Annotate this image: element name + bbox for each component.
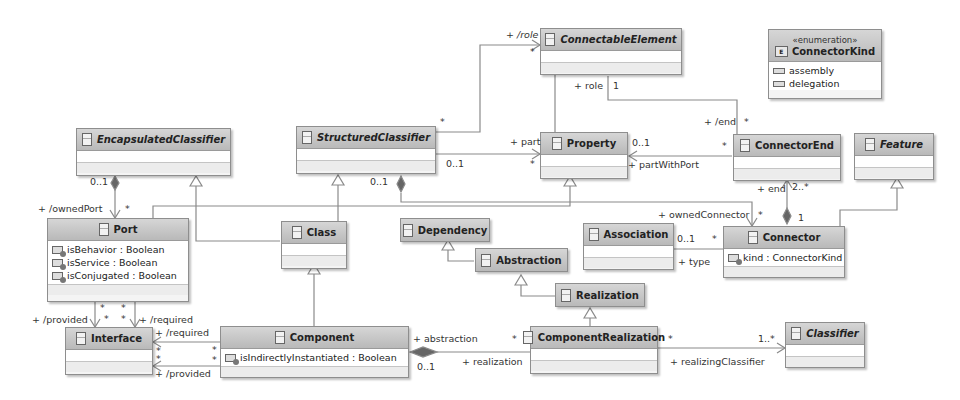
attributes-compartment: isBehavior : Boolean isService : Boolean… xyxy=(48,241,188,285)
class-icon xyxy=(589,228,599,241)
operations-compartment xyxy=(77,163,230,173)
class-name: Dependency xyxy=(418,225,488,236)
class-connector-end[interactable]: ConnectorEnd xyxy=(733,134,841,181)
multiplicity-label: 0..1 xyxy=(90,176,108,187)
class-icon xyxy=(523,331,533,344)
attribute[interactable]: isConjugated : Boolean xyxy=(48,269,188,282)
multiplicity-label: * xyxy=(440,116,445,127)
class-icon xyxy=(275,331,285,344)
multiplicity-label: * xyxy=(104,313,109,324)
class-name: Realization xyxy=(576,290,639,301)
operations-compartment xyxy=(48,285,188,295)
literal-icon xyxy=(773,81,785,87)
class-port[interactable]: Port isBehavior : Boolean isService : Bo… xyxy=(47,218,189,302)
attributes-compartment xyxy=(282,244,346,256)
multiplicity-label: * xyxy=(100,302,105,313)
multiplicity-label: * xyxy=(722,140,727,151)
class-name: Interface xyxy=(91,333,142,344)
class-name: ComponentRealization xyxy=(538,332,665,343)
class-classifier[interactable]: Classifier xyxy=(785,322,865,368)
class-icon xyxy=(403,224,413,237)
role-label: + realization xyxy=(462,356,523,367)
attributes-compartment xyxy=(531,349,657,361)
attributes-compartment xyxy=(734,157,840,169)
class-icon xyxy=(292,226,302,239)
operations-compartment xyxy=(734,169,840,179)
multiplicity-label: * xyxy=(125,203,130,214)
role-label: + ownedConnector xyxy=(658,209,749,220)
attributes-compartment xyxy=(541,155,627,167)
role-label: + type xyxy=(678,256,710,267)
multiplicity-label: 1 xyxy=(613,80,619,91)
role-label: + /provided xyxy=(32,314,88,325)
operations-compartment xyxy=(66,362,152,372)
multiplicity-label: 1 xyxy=(798,212,804,223)
class-name: ConnectorEnd xyxy=(755,140,834,151)
class-icon xyxy=(552,137,562,150)
multiplicity-label: * xyxy=(712,233,717,244)
operations-compartment xyxy=(282,256,346,266)
attributes-compartment: kind : ConnectorKind xyxy=(724,249,844,267)
class-connectable-element[interactable]: ConnectableElement xyxy=(540,28,682,75)
multiplicity-label: * xyxy=(121,313,126,324)
literal[interactable]: assembly xyxy=(769,64,881,77)
stereotype-label: «enumeration» xyxy=(793,35,858,45)
role-label: + /ownedPort xyxy=(38,203,103,214)
connector-generalization xyxy=(840,188,897,226)
class-encapsulated-classifier[interactable]: EncapsulatedClassifier xyxy=(76,128,231,176)
role-label: + abstraction xyxy=(413,333,478,344)
class-component-realization[interactable]: ComponentRealization xyxy=(530,326,658,374)
role-label: + realizingClassifier xyxy=(670,356,765,367)
attribute[interactable]: isBehavior : Boolean xyxy=(48,243,188,256)
class-name: ConnectableElement xyxy=(560,34,676,45)
role-label: + /required xyxy=(139,314,193,325)
class-feature[interactable]: Feature xyxy=(854,133,934,180)
class-icon xyxy=(865,138,875,151)
attribute-icon xyxy=(728,254,739,262)
class-icon xyxy=(82,133,92,146)
class-abstraction[interactable]: Abstraction xyxy=(475,248,568,272)
multiplicity-label: * xyxy=(530,46,535,57)
operations-compartment xyxy=(855,168,933,178)
role-label: + end xyxy=(757,183,786,194)
attributes-compartment xyxy=(584,246,673,258)
class-name: StructuredClassifier xyxy=(317,132,430,143)
class-name: Class xyxy=(307,227,336,238)
operations-compartment xyxy=(531,361,657,371)
attributes-compartment xyxy=(855,156,933,168)
class-name: Port xyxy=(114,224,138,235)
port-generalization xyxy=(153,176,570,220)
role-label: + partWithPort xyxy=(628,159,699,170)
attribute[interactable]: kind : ConnectorKind xyxy=(724,251,844,264)
class-structured-classifier[interactable]: StructuredClassifier xyxy=(296,126,436,174)
role-label: + role xyxy=(574,80,603,91)
attribute[interactable]: isIndirectlyInstantiated : Boolean xyxy=(221,351,408,364)
class-icon xyxy=(545,33,555,46)
class-connector[interactable]: Connector kind : ConnectorKind xyxy=(723,226,845,278)
role-label: + /provided xyxy=(155,368,211,379)
class-component[interactable]: Component isIndirectlyInstantiated : Boo… xyxy=(220,326,409,378)
enumeration-connector-kind[interactable]: «enumeration» EConnectorKind assembly de… xyxy=(768,29,882,99)
class-association[interactable]: Association xyxy=(583,223,674,270)
class-name: Abstraction xyxy=(496,255,561,266)
multiplicity-label: 1..* xyxy=(758,333,775,344)
class-class[interactable]: Class xyxy=(281,221,347,269)
literal[interactable]: delegation xyxy=(769,77,881,90)
operations-compartment xyxy=(297,161,435,171)
multiplicity-label: 0..1 xyxy=(370,176,388,187)
class-realization[interactable]: Realization xyxy=(555,283,645,307)
multiplicity-label: * xyxy=(530,158,535,169)
attributes-compartment xyxy=(77,151,230,163)
class-interface[interactable]: Interface xyxy=(65,327,153,375)
attribute[interactable]: isService : Boolean xyxy=(48,256,188,269)
role-label: + part xyxy=(510,136,540,147)
class-generalization-ec xyxy=(196,186,280,241)
class-name: Classifier xyxy=(806,328,858,339)
multiplicity-label: * xyxy=(156,353,161,364)
multiplicity-label: * xyxy=(744,116,749,127)
class-icon xyxy=(748,231,758,244)
class-property[interactable]: Property xyxy=(540,132,628,179)
class-name: Component xyxy=(290,332,354,343)
multiplicity-label: * xyxy=(668,333,673,344)
class-dependency[interactable]: Dependency xyxy=(400,218,490,242)
